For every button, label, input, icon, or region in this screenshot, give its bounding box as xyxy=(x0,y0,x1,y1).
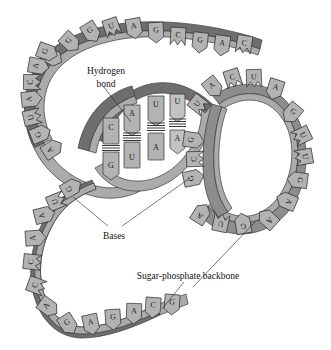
label-sugar-phosphate-backbone: Sugar-phosphate backbone xyxy=(137,271,239,281)
base-pair-3: U A xyxy=(147,96,165,160)
rna-base: C xyxy=(24,75,42,90)
label-hydrogen-bond-line1: Hydrogen xyxy=(87,66,125,76)
rna-structure-figure: C G A U xyxy=(0,0,331,350)
pentagon-base-icon xyxy=(24,75,42,90)
label-bases: Bases xyxy=(103,231,125,241)
label-hydrogen-bond-line2: bond xyxy=(97,79,116,89)
